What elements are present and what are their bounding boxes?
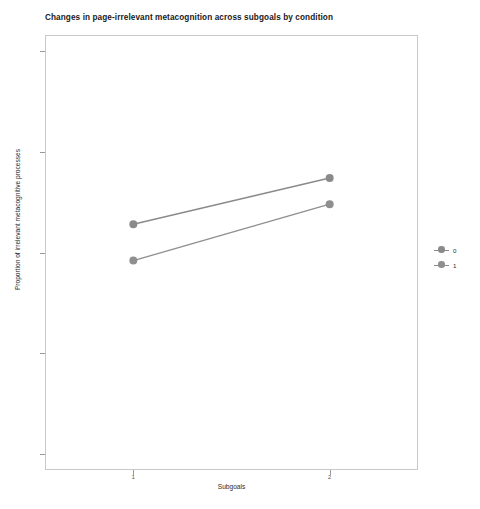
plot-panel [45, 35, 418, 470]
x-axis-title: Subgoals [45, 483, 418, 490]
legend: 01 [434, 243, 456, 273]
legend-label: 0 [453, 247, 456, 254]
legend-item-1[interactable]: 1 [434, 258, 456, 273]
legend-label: 1 [453, 262, 456, 269]
y-tick-mark [40, 353, 45, 354]
chart-title: Changes in page-irrelevant metacognition… [45, 13, 333, 22]
x-tick-mark [330, 470, 331, 475]
legend-key-icon [434, 243, 449, 258]
y-tick-mark [40, 253, 45, 254]
y-tick-mark [40, 51, 45, 52]
y-axis-title: Proportion of irrelevant metacognitive p… [14, 90, 21, 350]
x-tick-mark [133, 470, 134, 475]
legend-key-icon [434, 258, 449, 273]
y-tick-mark [40, 152, 45, 153]
legend-item-0[interactable]: 0 [434, 243, 456, 258]
y-tick-mark [40, 454, 45, 455]
chart-figure: Changes in page-irrelevant metacognition… [0, 0, 480, 509]
